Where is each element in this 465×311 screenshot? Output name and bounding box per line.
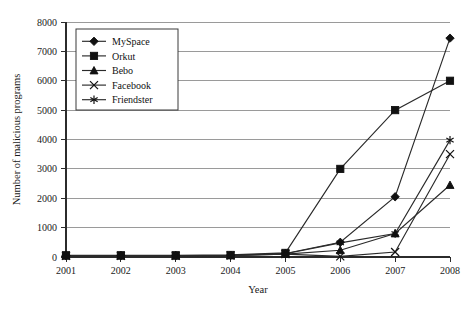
x-tick-label: 2008	[440, 265, 460, 276]
chart-figure: 010002000300040005000600070008000 200120…	[0, 0, 465, 311]
line-chart: 010002000300040005000600070008000 200120…	[0, 0, 465, 311]
legend-label-friendster: Friendster	[112, 94, 153, 105]
data-point-orkut-2006	[337, 165, 344, 172]
y-tick-label: 2000	[37, 193, 57, 204]
x-tick-label: 2003	[166, 265, 186, 276]
x-axis-title-text: Year	[248, 284, 268, 295]
data-point-orkut-2008	[446, 77, 453, 84]
x-tick-label: 2006	[330, 265, 350, 276]
y-tick-label: 7000	[37, 46, 57, 57]
y-axis-title: Number of malicious programs	[11, 74, 22, 206]
x-tick-label: 2007	[385, 265, 405, 276]
legend-label-myspace: MySpace	[112, 36, 150, 47]
legend-marker-square-icon	[90, 52, 97, 59]
x-tick-label: 2002	[111, 265, 131, 276]
y-tick-label: 3000	[37, 163, 57, 174]
y-tick-label: 8000	[37, 17, 57, 28]
chart-legend: MySpaceOrkutBeboFacebookFriendster	[76, 29, 178, 110]
y-axis-title-text: Number of malicious programs	[11, 74, 22, 206]
y-tick-label: 4000	[37, 134, 57, 145]
data-point-orkut-2007	[392, 107, 399, 114]
y-tick-label: 0	[52, 252, 57, 263]
x-tick-label: 2001	[56, 265, 76, 276]
y-tick-label: 1000	[37, 222, 57, 233]
legend-label-orkut: Orkut	[112, 51, 136, 62]
x-tick-label: 2004	[221, 265, 241, 276]
y-tick-label: 6000	[37, 75, 57, 86]
legend-label-bebo: Bebo	[112, 65, 133, 76]
y-tick-label: 5000	[37, 105, 57, 116]
x-axis-title: Year	[248, 284, 268, 295]
x-tick-label: 2005	[275, 265, 295, 276]
legend-label-facebook: Facebook	[112, 80, 151, 91]
